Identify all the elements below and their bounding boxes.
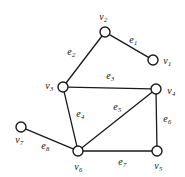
graph-edge-e4-label: e4 [76,109,84,119]
graph-vertex-v5-label: v5 [154,161,162,171]
graph-vertex-v2 [100,27,110,37]
graph-vertex-v4 [151,84,161,94]
graph-diagram: v1v2v3v4v5v6v7e1e2e3e4e5e6e7e8 [0,0,185,177]
graph-vertex-v5 [152,146,162,156]
graph-edge-e6-label: e6 [163,114,171,124]
graph-edge-e8 [25,129,73,149]
graph-edge-e5-label: e5 [113,102,121,112]
graph-vertex-v6 [73,146,83,156]
graph-vertex-v7 [16,122,26,132]
graph-edge-e4 [64,92,77,147]
graph-edge-e2-label: e2 [67,47,75,57]
graph-vertex-v2-label: v2 [99,12,107,22]
graph-edge-e6 [156,94,157,147]
graph-vertex-v7-label: v7 [15,135,23,145]
graph-edge-e1-label: e1 [129,35,137,45]
graph-edge-e2 [66,36,102,84]
graph-canvas [0,0,185,177]
graph-edge-e3-label: e3 [106,71,114,81]
graph-edge-e8-label: e8 [41,141,49,151]
vertices-group [16,27,162,156]
edges-group [25,34,157,151]
graph-edge-e3 [68,87,152,89]
graph-edge-e7-label: e7 [118,157,126,167]
graph-vertex-v3-label: v3 [45,81,53,91]
graph-vertex-v4-label: v4 [167,86,175,96]
graph-vertex-v1 [148,55,158,65]
graph-vertex-v3 [58,82,68,92]
graph-vertex-v6-label: v6 [74,162,82,172]
graph-vertex-v1-label: v1 [163,56,171,66]
